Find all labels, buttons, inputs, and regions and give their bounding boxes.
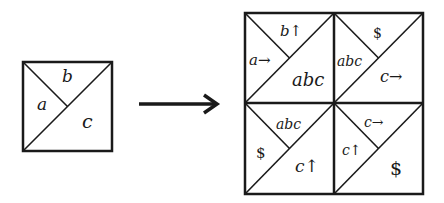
tile-top-left-label-top: b↑ bbox=[280, 22, 302, 40]
source-label-left: a bbox=[37, 94, 47, 114]
tile-bottom-left-label-top: abc bbox=[276, 116, 301, 132]
tile-top-right-label-top: $ bbox=[373, 25, 382, 41]
tile-bottom-left-label-bottom-right: c↑ bbox=[295, 156, 319, 176]
tile-bottom-right-label-left: c↑ bbox=[342, 142, 362, 158]
source-tile: a b c bbox=[23, 62, 112, 151]
tile-top-left-label-bottom-right: abc bbox=[292, 69, 324, 90]
tile-top-left: a→ b↑ abc bbox=[245, 13, 334, 103]
tile-bottom-left-label-left: $ bbox=[256, 144, 266, 162]
arrow-right-icon bbox=[139, 95, 217, 113]
source-label-bottom-right: c bbox=[82, 110, 93, 132]
source-label-top: b bbox=[62, 66, 73, 86]
tiling-diagram: a b c a→ b↑ abc abc $ c→ bbox=[0, 0, 444, 203]
tile-bottom-left: $ abc c↑ bbox=[245, 103, 334, 194]
tile-bottom-right-label-bottom-right: $ bbox=[390, 157, 402, 179]
result-grid: a→ b↑ abc abc $ c→ $ abc c↑ c↑ c→ $ bbox=[245, 13, 423, 194]
tile-bottom-right-label-top: c→ bbox=[364, 114, 384, 130]
tile-top-right-label-left: abc bbox=[337, 53, 362, 69]
tile-top-left-label-left: a→ bbox=[249, 51, 271, 69]
tile-top-right-label-bottom-right: c→ bbox=[380, 67, 402, 86]
tile-top-right: abc $ c→ bbox=[334, 13, 423, 103]
tile-bottom-right: c↑ c→ $ bbox=[334, 103, 423, 194]
